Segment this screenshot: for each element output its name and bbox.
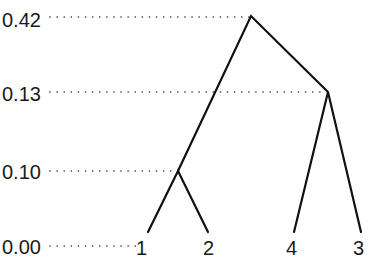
y-tick-label-0.13: 0.13 bbox=[2, 83, 41, 105]
y-tick-label-0.42: 0.42 bbox=[2, 9, 41, 31]
branch-merge-1-2 bbox=[148, 171, 208, 232]
y-tick-label-0.10: 0.10 bbox=[2, 161, 41, 183]
leaf-label-3: 3 bbox=[353, 237, 364, 258]
y-tick-label-0.00: 0.00 bbox=[2, 236, 41, 258]
dendrogram: 0.42 0.13 0.10 0.00 1 2 4 3 bbox=[0, 0, 374, 258]
leaf-label-1: 1 bbox=[136, 237, 147, 258]
leaf-label-4: 4 bbox=[286, 237, 297, 258]
branch-merge-root bbox=[178, 16, 328, 171]
leaf-label-2: 2 bbox=[203, 237, 214, 258]
branch-merge-4-3 bbox=[294, 92, 361, 232]
